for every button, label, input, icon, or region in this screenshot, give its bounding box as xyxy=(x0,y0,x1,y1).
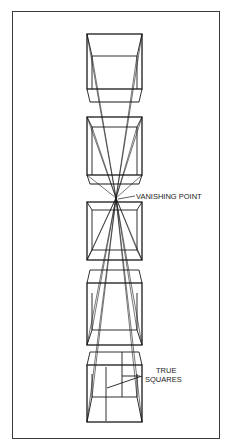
vanishing-point-label: VANISHING POINT xyxy=(136,192,202,201)
cube-1 xyxy=(87,34,142,102)
perspective-cubes-diagram: VANISHING POINT TRUE SQUARES xyxy=(0,0,233,447)
cube-4 xyxy=(87,270,142,345)
cube-5 xyxy=(87,352,142,422)
cube-2 xyxy=(87,117,142,184)
true-squares-label-line1: TRUE xyxy=(156,366,176,375)
vanishing-point-leader xyxy=(118,196,135,199)
convergence-lines xyxy=(87,34,142,422)
true-squares-label-line2: SQUARES xyxy=(145,375,182,384)
